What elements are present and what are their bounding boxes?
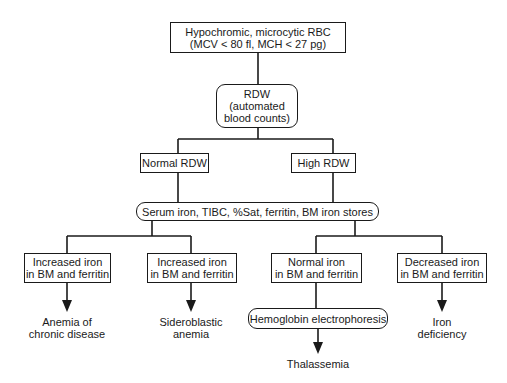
outcome-2-line2: anemia [146, 328, 236, 340]
outcome-2-line1: Sideroblastic [146, 316, 236, 328]
outcome-iron-deficiency: Iron deficiency [400, 316, 484, 340]
finding-3-line1: Normal iron [288, 256, 345, 268]
arrow-icon [437, 300, 447, 312]
arrow-icon [313, 342, 323, 354]
outcome-sideroblastic-anemia: Sideroblastic anemia [146, 316, 236, 340]
tests-label: Serum iron, TIBC, %Sat, ferritin, BM iro… [142, 206, 373, 218]
outcome-anemia-chronic-disease: Anemia of chronic disease [20, 316, 114, 340]
root-line2: (MCV < 80 fl, MCH < 27 pg) [190, 38, 326, 50]
finding-1-line2: in BM and ferritin [26, 268, 109, 280]
rdw-line3: blood counts) [224, 112, 290, 124]
root-node: Hypochromic, microcytic RBC (MCV < 80 fl… [170, 22, 346, 53]
finding-3-line2: in BM and ferritin [275, 268, 358, 280]
finding-4-line1: Decreased iron [405, 256, 480, 268]
finding-node-3: Normal iron in BM and ferritin [271, 253, 362, 283]
high-rdw-node: High RDW [291, 153, 356, 173]
outcome-1-line1: Anemia of [20, 316, 114, 328]
hemoglobin-electrophoresis-node: Hemoglobin electrophoresis [248, 308, 388, 329]
outcome-4-line1: Iron [400, 316, 484, 328]
root-line1: Hypochromic, microcytic RBC [185, 26, 330, 38]
normal-rdw-node: Normal RDW [140, 153, 209, 173]
finding-node-4: Decreased iron in BM and ferritin [397, 253, 487, 283]
arrow-icon [62, 300, 72, 312]
finding-node-1: Increased iron in BM and ferritin [24, 253, 111, 283]
outcome-thalassemia: Thalassemia [272, 358, 364, 370]
finding-node-2: Increased iron in BM and ferritin [147, 253, 237, 283]
rdw-line1: RDW [244, 88, 270, 100]
finding-2-line1: Increased iron [157, 256, 227, 268]
rdw-node: RDW (automated blood counts) [216, 84, 298, 128]
tests-node: Serum iron, TIBC, %Sat, ferritin, BM iro… [136, 202, 379, 221]
outcome-3-line1: Thalassemia [272, 358, 364, 370]
high-rdw-label: High RDW [298, 157, 350, 169]
finding-1-line1: Increased iron [33, 256, 103, 268]
finding-4-line2: in BM and ferritin [400, 268, 483, 280]
hemoglobin-electrophoresis-label: Hemoglobin electrophoresis [250, 313, 386, 325]
outcome-4-line2: deficiency [400, 328, 484, 340]
arrow-icon [186, 300, 196, 312]
finding-2-line2: in BM and ferritin [150, 268, 233, 280]
rdw-line2: (automated [229, 100, 285, 112]
normal-rdw-label: Normal RDW [142, 157, 207, 169]
outcome-1-line2: chronic disease [20, 328, 114, 340]
